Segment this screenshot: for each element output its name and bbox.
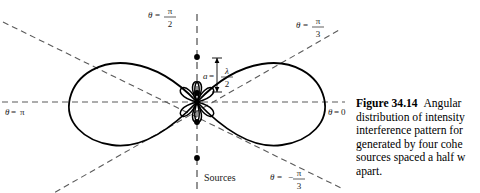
spacing-numerator: λ xyxy=(224,66,229,76)
value-pi: π xyxy=(20,107,25,117)
denominator-pi-3: 3 xyxy=(316,29,321,39)
caption-line-5: sources spaced a half w xyxy=(356,151,480,165)
equals-pi: = xyxy=(11,107,16,117)
label-theta-pi: θ = π xyxy=(5,107,25,117)
theta-symbol-half-pi: θ xyxy=(148,10,153,20)
source-dot-1 xyxy=(194,54,200,60)
source-dot-3 xyxy=(194,119,200,125)
caption-figure-label: Figure 34.14 xyxy=(356,97,418,110)
caption-figure-number: 34.14 xyxy=(392,97,418,110)
value-zero: 0 xyxy=(341,107,346,117)
equals-pi-3: = xyxy=(303,20,308,30)
theta-symbol-pi-3: θ xyxy=(296,20,301,30)
label-theta-zero: θ = 0 xyxy=(328,107,346,117)
label-theta-minus-pi-over-3: θ = − π 3 xyxy=(270,168,305,191)
spacing-symbol: a xyxy=(203,71,208,81)
sources-label: Sources xyxy=(204,172,236,183)
label-theta-pi-over-3: θ = π 3 xyxy=(296,16,324,39)
denominator-half-pi: 2 xyxy=(168,19,173,29)
sign-minus-pi-3: − xyxy=(288,172,293,182)
theta-symbol-zero: θ xyxy=(328,107,333,117)
numerator-pi-3: π xyxy=(316,16,321,26)
numerator-half-pi: π xyxy=(168,6,173,16)
axis-diagonal-minus-pi-over-3 xyxy=(3,22,341,188)
caption-line-3: interference pattern for xyxy=(356,124,480,138)
denominator-minus-pi-3: 3 xyxy=(297,181,302,191)
source-dot-2 xyxy=(194,90,200,96)
main-lobe-left xyxy=(69,63,197,146)
spacing-denominator: 2 xyxy=(225,79,230,89)
equals-zero: = xyxy=(334,107,339,117)
theta-symbol-minus-pi-3: θ xyxy=(270,172,275,182)
theta-symbol-pi: θ xyxy=(5,107,10,117)
spacing-equals: = xyxy=(209,71,214,81)
caption-text-1: Angular xyxy=(423,97,461,110)
equals-minus-pi-3: = xyxy=(277,172,282,182)
main-lobe-right xyxy=(197,63,325,146)
caption-figure-word: Figure xyxy=(356,97,389,110)
radiation-pattern-diagram: a = λ 2 θ = π 2 θ = π 3 θ = − π xyxy=(0,0,348,193)
label-theta-half-pi: θ = π 2 xyxy=(148,6,176,29)
numerator-minus-pi-3: π xyxy=(297,168,302,178)
equals-half-pi: = xyxy=(155,10,160,20)
caption-line-2: distribution of intensity xyxy=(356,111,480,125)
caption-line-4: generated by four cohe xyxy=(356,138,480,152)
caption-line-6: apart. xyxy=(356,165,480,179)
figure-caption: Figure 34.14 Angular distribution of int… xyxy=(356,97,480,193)
spacing-label: a = λ 2 xyxy=(203,66,233,89)
caption-line-1: Figure 34.14 Angular xyxy=(356,97,480,111)
axis-diagonal-pi-over-3 xyxy=(3,29,341,193)
figure-container: a = λ 2 θ = π 2 θ = π 3 θ = − π xyxy=(0,0,480,193)
source-dot-4 xyxy=(194,155,200,161)
